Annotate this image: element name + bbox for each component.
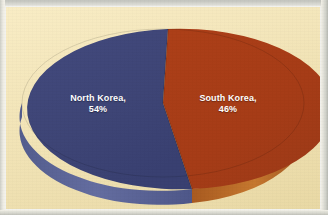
- scan-edge-left: [0, 0, 5, 215]
- screenshot-root: North Korea, 54% South Korea, 46%: [0, 0, 328, 215]
- scan-edge-right: [321, 0, 328, 215]
- chart-plate: North Korea, 54% South Korea, 46%: [6, 7, 320, 209]
- scan-edge-top: [0, 0, 328, 6]
- pie-chart-svg: [6, 7, 320, 209]
- pie-chart: [6, 7, 320, 209]
- scan-edge-bottom: [0, 210, 328, 215]
